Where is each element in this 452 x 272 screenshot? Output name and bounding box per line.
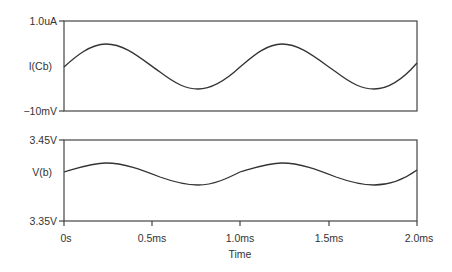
xtick-label-0: 0s [60,232,71,244]
top-ymax-label: 1.0uA [30,15,57,27]
xtick-label-4: 2.0ms [405,232,434,244]
xtick-label-1: 0.5ms [138,232,167,244]
top-plot: 1.0uA −10mV I(Cb) [23,15,417,117]
bottom-plot: 3.45V 3.35V V(b) 0s 0.5ms 1.0ms 1.5ms 2.… [30,134,434,260]
bottom-trace-voltage [64,163,417,185]
bottom-ymin-label: 3.35V [30,215,57,227]
x-axis-title: Time [229,248,252,260]
xtick-label-3: 1.5ms [315,232,344,244]
top-trace-icurrent [64,44,417,89]
xtick-label-2: 1.0ms [226,232,255,244]
top-ylabel: I(Cb) [29,60,52,72]
bottom-plot-frame [64,140,417,221]
chart-canvas: 1.0uA −10mV I(Cb) 3.45V 3.35V V(b) 0s 0.… [0,0,452,272]
bottom-ylabel: V(b) [32,166,52,178]
top-ymin-label: −10mV [23,105,57,117]
bottom-ymax-label: 3.45V [30,134,57,146]
